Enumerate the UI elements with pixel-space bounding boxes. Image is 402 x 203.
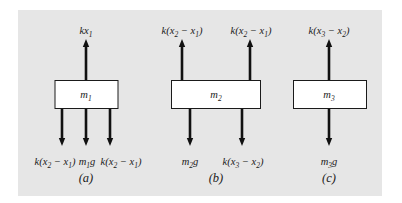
part-c: k(x3 − x2) m3 m3g (c)	[294, 25, 367, 185]
force-label-up: k(x2 − x1)	[162, 25, 203, 39]
force-label-down: m2g	[182, 156, 199, 170]
part-a: kx1 m1 k(x2 − x1) m1g k(x2 − x1) (a)	[35, 25, 142, 185]
force-label-down: k(x2 − x1)	[35, 156, 76, 170]
part-caption: (a)	[79, 171, 94, 185]
force-arrow-up	[326, 39, 332, 80]
force-arrow-down	[107, 109, 113, 146]
force-label-up: k(x2 − x1)	[231, 25, 272, 39]
force-arrow-up	[247, 39, 253, 80]
part-caption: (c)	[322, 171, 336, 185]
force-arrow-up	[179, 39, 185, 80]
free-body-diagram: kx1 m1 k(x2 − x1) m1g k(x2 − x1) (a)	[0, 0, 402, 203]
force-label-down: k(x3 − x2)	[223, 156, 264, 170]
part-caption: (b)	[209, 171, 224, 185]
force-arrow-down	[239, 109, 245, 146]
force-label-down: k(x2 − x1)	[101, 156, 142, 170]
force-arrow-down	[326, 109, 332, 146]
force-arrow-down	[83, 109, 89, 146]
force-arrow-down	[59, 109, 65, 146]
force-label-up: k(x3 − x2)	[309, 25, 350, 39]
force-label-down: m1g	[79, 156, 96, 170]
force-label-up: kx1	[79, 25, 92, 39]
force-arrow-down	[187, 109, 193, 146]
force-arrow-up	[83, 39, 89, 80]
part-b: k(x2 − x1) k(x2 − x1) m2 m2g k(x3 − x2) …	[162, 25, 272, 185]
force-label-down: m3g	[321, 156, 338, 170]
